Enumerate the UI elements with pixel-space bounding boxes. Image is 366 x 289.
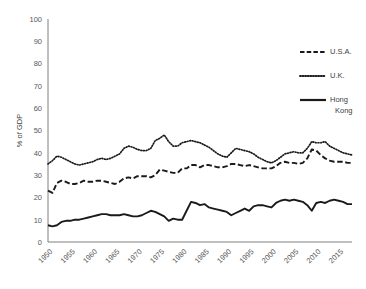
x-axis-tick-label: 1985 [193, 247, 211, 265]
x-axis-tick-label: 1975 [148, 247, 166, 265]
x-axis-tick-label: 2005 [282, 247, 300, 265]
x-axis-tick-label: 1960 [81, 247, 99, 265]
series-line-uk [48, 135, 352, 165]
x-axis-tick-label: 2010 [304, 247, 322, 265]
series-line-hong-kong [48, 200, 352, 227]
legend-label-usa: U.S.A. [330, 47, 352, 56]
legend-label-kong: Kong [335, 106, 353, 115]
x-axis-tick-label: 1995 [237, 247, 255, 265]
x-axis-tick-label: 1950 [36, 247, 54, 265]
y-axis-tick-label: 60 [34, 104, 42, 113]
series-line-usa [48, 149, 352, 192]
y-axis-tick-label: 10 [34, 216, 42, 225]
y-axis-tick-label: 20 [34, 193, 42, 202]
legend-label-hong: Hong [330, 95, 348, 104]
y-axis-tick-label: 0 [38, 238, 42, 247]
x-axis-tick-label: 1980 [170, 247, 188, 265]
y-axis-tick-label: 40 [34, 149, 42, 158]
x-axis-tick-label: 2000 [260, 247, 278, 265]
x-axis-tick-label: 1955 [59, 247, 77, 265]
y-axis-tick-label: 100 [29, 15, 42, 24]
x-axis-tick-label: 1990 [215, 247, 233, 265]
y-axis-tick-label: 90 [34, 37, 42, 46]
legend-label-uk: U.K. [330, 71, 345, 80]
y-axis-tick-label: 80 [34, 59, 42, 68]
y-axis-tick-label: 30 [34, 171, 42, 180]
x-axis-tick-label: 2015 [327, 247, 345, 265]
chart-canvas: 0102030405060708090100% of GDP1950195519… [0, 0, 366, 289]
line-chart: 0102030405060708090100% of GDP1950195519… [0, 0, 366, 289]
y-axis-title: % of GDP [15, 114, 24, 147]
x-axis-tick-label: 1970 [126, 247, 144, 265]
y-axis-tick-label: 70 [34, 82, 42, 91]
y-axis-tick-label: 50 [34, 126, 42, 135]
x-axis-tick-label: 1965 [103, 247, 121, 265]
